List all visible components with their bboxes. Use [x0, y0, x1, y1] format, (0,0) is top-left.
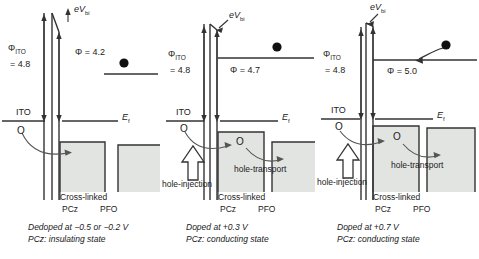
panel-doped-03: ΦITO = 4.8 ITO eVbi Φ = 4.7 Ef O O hole-… [160, 0, 315, 259]
pcz-block [60, 142, 105, 192]
ito-label: ITO [331, 106, 346, 115]
ef-label: Ef [282, 113, 290, 124]
evbi-label: eVbi [370, 3, 386, 14]
phi-ito-label: ΦITO [323, 50, 341, 62]
ef-label: Ef [122, 113, 130, 124]
caption-line1: Doped at +0.3 V [186, 222, 248, 233]
hole-symbol-ito: O [17, 126, 25, 137]
hole-symbol-ito: O [335, 122, 343, 133]
phi-label: Φ = 4.2 [75, 48, 105, 57]
ito-label: ITO [176, 108, 191, 117]
material-left: PCz [220, 205, 236, 214]
phi-label: Φ = 5.0 [387, 67, 417, 76]
phi-ito-label: ΦITO [8, 44, 26, 56]
material-right: PFO [258, 205, 275, 214]
electron-dot [119, 58, 128, 67]
phi-ito-arrow-head-up [201, 26, 206, 33]
material-line1: Cross-linked [60, 193, 107, 202]
hole-symbol-pcz: O [236, 137, 244, 148]
phi-ito-arrow-head-up [358, 29, 363, 36]
pfo-block [118, 145, 160, 192]
hole-transport-label: hole-transport [391, 161, 443, 170]
phi-ito-value: = 4.8 [10, 60, 30, 69]
panel-doped-07: ΦITO = 4.8 ITO eVbi Φ = 5.0 Ef O O hole-… [315, 0, 479, 259]
evbi-arrow-head-up [370, 27, 375, 34]
evbi-arrow-head-down [214, 115, 219, 122]
material-line1: Cross-linked [218, 193, 265, 202]
material-line1: Cross-linked [373, 193, 420, 202]
electron-dot [272, 42, 281, 51]
evbi-arrow-head-down [370, 113, 375, 120]
energy-band-diagram-figure: ΦITO = 4.8 ITO eVbi Φ = 4.2 Ef O Cross-l… [0, 0, 479, 259]
vacuum-level-slope [210, 24, 217, 30]
material-left: PCz [375, 205, 391, 214]
ito-label: ITO [16, 108, 31, 117]
evbi-leader-line [219, 20, 228, 28]
caption-line2: PCz: conducting state [186, 234, 269, 245]
hole-symbol-ito: O [180, 124, 188, 135]
ef-label: Ef [437, 111, 445, 122]
caption-line1: Dedoped at −0.5 or −0.2 V [28, 222, 128, 233]
panel-dedoped: ΦITO = 4.8 ITO eVbi Φ = 4.2 Ef O Cross-l… [0, 0, 160, 259]
evbi-leader-line [370, 14, 378, 22]
hole-injection-label: hole-injection [317, 178, 367, 187]
hole-transport-label: hole-transport [234, 165, 286, 174]
electron-dot [441, 40, 450, 49]
vacuum-level-slope [52, 13, 59, 32]
material-right: PFO [100, 205, 117, 214]
phi-ito-arrow-head-up [41, 14, 46, 21]
hole-injection-label: hole-injection [162, 180, 212, 189]
evbi-pointer-head [65, 8, 70, 15]
electron-injection-path [419, 48, 443, 59]
hole-injection-block-arrow [182, 146, 204, 180]
phi-ito-value: = 4.8 [325, 66, 345, 75]
phi-label: Φ = 4.7 [230, 66, 260, 75]
caption-line1: Doped at +0.7 V [337, 222, 399, 233]
hole-injection-block-arrow [337, 144, 359, 178]
material-left: PCz [62, 205, 78, 214]
phi-ito-value: = 4.8 [170, 66, 190, 75]
evbi-label: eVbi [229, 11, 245, 22]
hole-symbol-pcz: O [393, 132, 401, 143]
caption-line2: PCz: insulating state [28, 234, 105, 245]
evbi-arrow-head-up [56, 32, 61, 39]
caption-line2: PCz: conducting state [337, 234, 420, 245]
evbi-arrow-head-down [56, 115, 61, 122]
evbi-label: eVbi [74, 5, 90, 16]
phi-ito-label: ΦITO [168, 50, 186, 62]
material-right: PFO [413, 205, 430, 214]
